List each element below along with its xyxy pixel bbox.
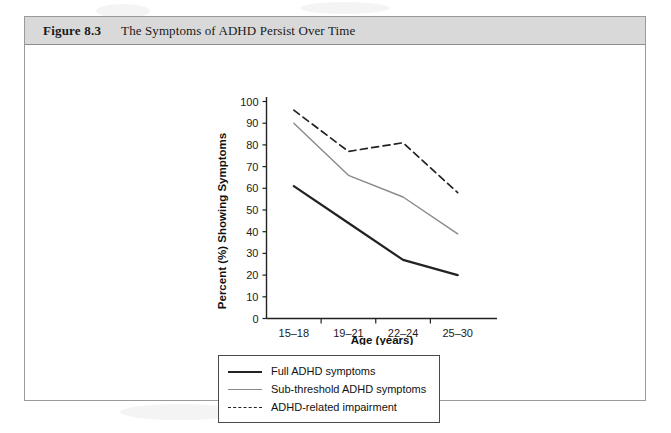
series-line	[294, 110, 458, 192]
y-tick-label: 80	[246, 139, 258, 151]
line-chart-svg: Percent (%) Showing Symptoms 01020304050…	[25, 45, 647, 345]
legend-label: Full ADHD symptoms	[271, 365, 376, 377]
x-tick-label: 25–30	[442, 327, 473, 339]
series-line	[294, 123, 458, 234]
x-tick-label: 15–18	[279, 327, 310, 339]
y-tick-label: 70	[246, 161, 258, 173]
legend-label: Sub-threshold ADHD symptoms	[271, 383, 426, 395]
chart-legend: Full ADHD symptoms Sub-threshold ADHD sy…	[218, 355, 440, 423]
y-tick-label: 90	[246, 117, 258, 129]
solid-thick-black-line-icon	[228, 365, 262, 377]
y-tick-label: 0	[252, 313, 258, 325]
figure-title-label: The Symptoms of ADHD Persist Over Time	[121, 23, 355, 39]
dashed-black-line-icon	[228, 401, 262, 413]
series-line	[294, 186, 458, 275]
legend-item-full-adhd-symptoms: Full ADHD symptoms	[228, 362, 430, 380]
legend-label: ADHD-related impairment	[271, 401, 397, 413]
figure-body: Percent (%) Showing Symptoms 01020304050…	[25, 45, 645, 400]
x-axis-title: Age (years)	[351, 334, 414, 345]
y-axis-ticks: 0102030405060708090100	[240, 96, 266, 325]
chart-series-group	[294, 110, 458, 275]
y-tick-label: 60	[246, 182, 258, 194]
legend-item-adhd-related-impairment: ADHD-related impairment	[228, 398, 430, 416]
figure-container: Figure 8.3 The Symptoms of ADHD Persist …	[24, 16, 646, 401]
y-tick-label: 100	[240, 96, 258, 108]
y-tick-label: 30	[246, 247, 258, 259]
y-tick-label: 10	[246, 291, 258, 303]
solid-thin-gray-line-icon	[228, 383, 262, 395]
y-tick-label: 40	[246, 226, 258, 238]
y-tick-label: 20	[246, 269, 258, 281]
y-axis-title: Percent (%) Showing Symptoms	[216, 133, 228, 309]
figure-number-label: Figure 8.3	[43, 23, 101, 39]
y-tick-label: 50	[246, 204, 258, 216]
legend-item-sub-threshold-adhd-symptoms: Sub-threshold ADHD symptoms	[228, 380, 430, 398]
chart-plot-area: Percent (%) Showing Symptoms 01020304050…	[25, 45, 647, 345]
figure-header: Figure 8.3 The Symptoms of ADHD Persist …	[25, 17, 645, 45]
